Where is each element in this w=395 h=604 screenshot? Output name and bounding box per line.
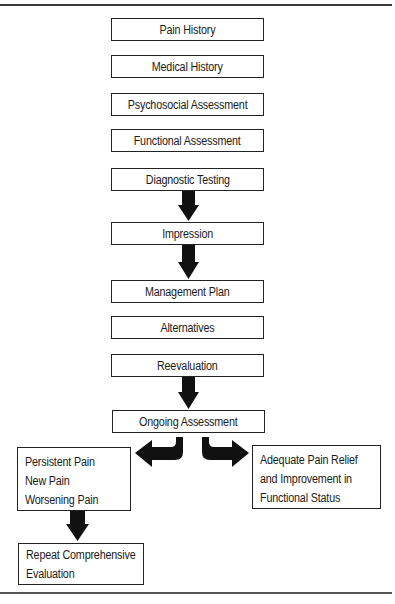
step-psychosocial-assessment: Psychosocial Assessment <box>111 93 264 116</box>
step-label: Impression <box>162 227 213 241</box>
step-label: Functional Assessment <box>134 134 241 148</box>
step-label: Alternatives <box>160 321 214 335</box>
branch-line: and Improvement in <box>260 470 363 489</box>
down-arrow-icon <box>178 245 199 279</box>
branch-line: Repeat Comprehensive <box>26 546 127 565</box>
curved-right-arrow-icon <box>202 437 249 467</box>
step-medical-history: Medical History <box>111 55 264 78</box>
down-arrow-icon <box>66 511 89 541</box>
step-reevaluation: Reevaluation <box>111 354 264 377</box>
step-label: Medical History <box>152 60 223 74</box>
step-impression: Impression <box>111 222 264 245</box>
branch-line: Adequate Pain Relief <box>260 451 363 470</box>
branch-line: New Pain <box>25 472 115 491</box>
step-alternatives: Alternatives <box>111 316 264 339</box>
branch-line: Functional Status <box>260 489 363 508</box>
bottom-rule <box>0 592 392 594</box>
step-label: Ongoing Assessment <box>139 415 237 429</box>
step-label: Psychosocial Assessment <box>128 98 248 112</box>
branch-adequate-relief: Adequate Pain Relief and Improvement in … <box>252 445 381 509</box>
branch-line: Evaluation <box>26 565 127 584</box>
step-ongoing-assessment: Ongoing Assessment <box>112 410 265 433</box>
step-diagnostic-testing: Diagnostic Testing <box>111 168 264 191</box>
step-pain-history: Pain History <box>111 18 264 41</box>
branch-persistent-pain: Persistent Pain New Pain Worsening Pain <box>17 447 131 511</box>
branch-line: Persistent Pain <box>25 453 115 472</box>
branch-line: Worsening Pain <box>25 491 115 510</box>
down-arrow-icon <box>178 191 199 221</box>
step-label: Reevaluation <box>157 359 218 373</box>
curved-left-arrow-icon <box>135 437 183 467</box>
down-arrow-icon <box>178 377 199 409</box>
step-functional-assessment: Functional Assessment <box>111 129 264 152</box>
top-rule <box>0 4 392 6</box>
step-label: Management Plan <box>145 285 230 299</box>
repeat-comprehensive-evaluation: Repeat Comprehensive Evaluation <box>18 543 144 585</box>
step-management-plan: Management Plan <box>111 280 264 303</box>
step-label: Pain History <box>160 23 216 37</box>
step-label: Diagnostic Testing <box>146 173 230 187</box>
